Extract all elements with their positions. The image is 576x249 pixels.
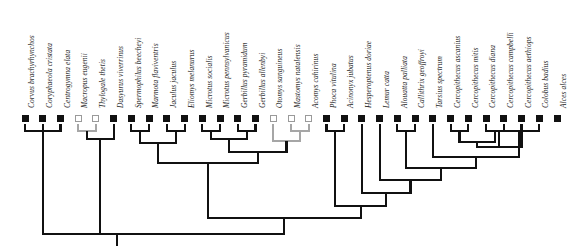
taxon-label: Macropus eugenii — [81, 53, 88, 108]
tip-marker-filled — [447, 115, 454, 122]
branch-stem — [518, 131, 520, 158]
taxon-label: Gerbillus allenbyi — [259, 53, 266, 108]
taxon-label: Lemur catta — [383, 71, 390, 108]
branch-stem — [379, 124, 381, 181]
branch-stem — [498, 131, 500, 148]
tip-marker-filled — [536, 115, 543, 122]
branch-stem — [405, 131, 407, 169]
taxon-label: Alouatta palliata — [401, 56, 408, 108]
taxon-label: Acomys cahirinus — [312, 54, 319, 108]
tip-marker-filled — [146, 115, 153, 122]
tip-marker-filled — [483, 115, 490, 122]
tip-marker-filled — [57, 115, 64, 122]
taxon-label: Mastomys natalensis — [294, 44, 301, 108]
tip-marker-filled — [394, 115, 401, 122]
tip-marker-filled — [110, 115, 117, 122]
taxon-label: Centrogymna elata — [64, 50, 71, 108]
tip-marker-open — [305, 115, 312, 122]
tip-marker-filled — [39, 115, 46, 122]
tip-marker-filled — [465, 115, 472, 122]
tip-marker-filled — [323, 115, 330, 122]
taxon-label: Colobus badius — [542, 60, 549, 108]
branch-stem — [432, 124, 434, 158]
taxon-label: Phoca vitulina — [330, 63, 337, 108]
taxon-label: Otomys sanguineus — [276, 49, 283, 108]
tip-marker-filled — [234, 115, 241, 122]
tip-marker-open — [270, 115, 277, 122]
taxon-label: Cercopithecus aethiops — [525, 36, 532, 108]
taxon-label: Alces alces — [560, 74, 567, 108]
branch-stem — [361, 124, 363, 194]
taxon-label: Eliomys melanurus — [188, 49, 195, 108]
taxon-label: Cercopithecus diana — [489, 45, 496, 108]
taxon-label: Gerbillus pyramidum — [241, 43, 248, 108]
tip-marker-filled — [554, 115, 561, 122]
root-stub — [116, 234, 118, 246]
tip-marker-filled — [518, 115, 525, 122]
taxon-label: Hesperoptenus doriae — [365, 41, 372, 108]
branch-stem — [520, 124, 522, 148]
tip-marker-filled — [358, 115, 365, 122]
taxon-label: Spermophilus beecheyi — [135, 38, 142, 108]
tip-marker-filled — [22, 115, 29, 122]
taxon-label: Coryphaeola cristata — [46, 43, 53, 108]
taxon-label: Callithrix geoffroyi — [418, 49, 425, 108]
tip-marker-filled — [341, 115, 348, 122]
branch-crossbar — [42, 233, 286, 235]
taxon-label: Microtus pennsylvanicus — [223, 32, 230, 108]
taxon-label: Corvus brachyrhynchos — [28, 35, 35, 108]
tip-marker-filled — [500, 115, 507, 122]
taxon-label: Cercopithecus campbelli — [507, 32, 514, 108]
tip-marker-open — [288, 115, 295, 122]
tip-marker-filled — [181, 115, 188, 122]
taxon-label: Cercopithecus ascanius — [454, 36, 461, 108]
tip-marker-filled — [199, 115, 206, 122]
taxon-label: Cercopithecus mitis — [472, 47, 479, 108]
taxon-label: Thylogale thetis — [99, 59, 106, 108]
tip-marker-filled — [217, 115, 224, 122]
taxon-label: Tarsius spectrum — [436, 56, 443, 108]
tip-marker-filled — [163, 115, 170, 122]
taxon-label: Microtus socialis — [206, 55, 213, 108]
tip-marker-filled — [128, 115, 135, 122]
tip-marker-filled — [252, 115, 259, 122]
tip-marker-filled — [429, 115, 436, 122]
branch-stem — [42, 131, 44, 235]
branch-stem — [334, 131, 336, 207]
branch-stem — [207, 163, 209, 219]
taxon-label: Jaculus jaculus — [170, 61, 177, 108]
branch-stem — [99, 139, 101, 235]
tip-marker-open — [92, 115, 99, 122]
taxon-label: Dasyurus viverrinus — [117, 46, 124, 108]
tip-marker-filled — [376, 115, 383, 122]
tip-marker-filled — [412, 115, 419, 122]
taxon-label: Marmota flaviventris — [152, 43, 159, 108]
taxon-label: Acinonyx jubatus — [347, 55, 354, 108]
phylogenetic-tree-figure: Corvus brachyrhynchosCoryphaeola cristat… — [0, 0, 576, 249]
tip-marker-open — [75, 115, 82, 122]
